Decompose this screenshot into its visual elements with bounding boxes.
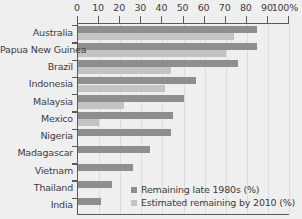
legend-item-remaining-1980s: Remaining late 1980s (%) <box>131 183 295 196</box>
bar-chart: 0102030405060708090100% AustraliaPapua N… <box>0 0 302 219</box>
x-axis-tick <box>204 16 205 24</box>
category-label: Vietnam <box>0 165 73 176</box>
x-axis-tick-label: 70 <box>219 2 231 13</box>
bar <box>78 198 101 205</box>
bar <box>78 164 133 171</box>
category-label: Nigeria <box>0 130 73 141</box>
bar <box>78 60 238 67</box>
bar <box>78 26 257 33</box>
x-axis-tick-label: 30 <box>134 2 146 13</box>
legend-item-estimated-2010: Estimated remaining by 2010 (%) <box>131 196 295 209</box>
x-axis-tick <box>161 16 162 24</box>
x-axis-tick <box>140 16 141 24</box>
category-label: Thailand <box>0 182 73 193</box>
category-label: Madagascar <box>0 147 73 158</box>
bar <box>78 112 173 119</box>
x-axis-tick-label: 0 <box>74 2 80 13</box>
legend-label: Remaining late 1980s (%) <box>141 183 259 196</box>
category-label: Papua New Guinea <box>0 44 73 55</box>
bar <box>78 43 257 50</box>
x-axis-tick <box>77 16 78 24</box>
bar <box>78 67 171 74</box>
x-axis-tick <box>288 16 289 24</box>
x-axis-tick <box>225 16 226 24</box>
bar <box>78 129 171 136</box>
category-label: Australia <box>0 27 73 38</box>
x-axis-tick-label: 80 <box>240 2 252 13</box>
bar <box>78 50 226 57</box>
legend-swatch-icon <box>131 187 137 193</box>
bar <box>78 146 150 153</box>
legend-swatch-icon <box>131 200 137 206</box>
bar <box>78 33 234 40</box>
x-axis-tick-label: 20 <box>113 2 125 13</box>
x-axis-tick <box>246 16 247 24</box>
bar <box>78 102 124 109</box>
bar <box>78 119 99 126</box>
x-axis-tick <box>119 16 120 24</box>
x-axis-tick <box>267 16 268 24</box>
category-label: Brazil <box>0 61 73 72</box>
category-label: Indonesia <box>0 78 73 89</box>
bar <box>78 95 184 102</box>
bar <box>78 181 112 188</box>
legend-label: Estimated remaining by 2010 (%) <box>141 196 295 209</box>
bar <box>78 85 165 92</box>
x-axis-tick-label: 60 <box>198 2 210 13</box>
x-axis-tick-label: 50 <box>177 2 189 13</box>
chart-legend: Remaining late 1980s (%) Estimated remai… <box>131 183 295 209</box>
x-axis-tick-label: 40 <box>156 2 168 13</box>
x-axis-tick-label: 100% <box>272 2 298 13</box>
x-axis-tick <box>183 16 184 24</box>
category-label: Malaysia <box>0 96 73 107</box>
bar <box>78 77 196 84</box>
x-axis-tick-label: 10 <box>92 2 104 13</box>
category-label: India <box>0 199 73 210</box>
x-axis-tick <box>98 16 99 24</box>
category-label: Mexico <box>0 113 73 124</box>
